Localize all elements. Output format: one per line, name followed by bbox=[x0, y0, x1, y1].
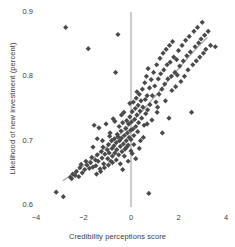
data-point bbox=[149, 77, 154, 82]
data-point bbox=[178, 79, 183, 84]
data-point bbox=[160, 130, 165, 135]
data-point bbox=[155, 110, 160, 115]
data-point bbox=[115, 32, 120, 37]
data-point bbox=[181, 58, 186, 63]
data-point bbox=[95, 136, 100, 141]
y-tick-label: 0.8 bbox=[11, 71, 33, 80]
data-point bbox=[96, 125, 101, 130]
data-point bbox=[176, 48, 181, 53]
plot-canvas bbox=[0, 0, 235, 247]
data-point bbox=[63, 25, 68, 30]
data-point bbox=[135, 129, 140, 134]
data-point bbox=[157, 56, 162, 61]
x-axis-title: Credibility perceptions score bbox=[0, 232, 235, 241]
data-point bbox=[152, 83, 157, 88]
data-point bbox=[92, 123, 97, 128]
data-point bbox=[169, 88, 174, 93]
data-point bbox=[113, 70, 118, 75]
data-point bbox=[114, 157, 119, 162]
data-point bbox=[134, 96, 139, 101]
data-point bbox=[146, 191, 151, 196]
data-point bbox=[185, 67, 190, 72]
data-point bbox=[118, 128, 123, 133]
data-point bbox=[101, 161, 106, 166]
data-point bbox=[61, 194, 66, 199]
data-point bbox=[166, 116, 171, 121]
data-point bbox=[149, 117, 154, 122]
data-point bbox=[208, 43, 213, 48]
data-point bbox=[160, 51, 165, 56]
data-point bbox=[122, 154, 127, 159]
data-points bbox=[54, 20, 218, 200]
data-point bbox=[156, 92, 161, 97]
y-axis-title: Likelihood of new investment (percent) bbox=[8, 34, 17, 184]
data-point bbox=[170, 39, 175, 44]
data-point bbox=[133, 156, 138, 161]
data-point bbox=[164, 47, 169, 52]
data-point bbox=[126, 159, 131, 164]
data-point bbox=[191, 29, 196, 34]
data-point bbox=[100, 138, 105, 143]
data-point bbox=[158, 71, 163, 76]
data-point bbox=[99, 155, 104, 160]
data-point bbox=[130, 109, 135, 114]
data-point bbox=[179, 43, 184, 48]
scatter-chart: Likelihood of new investment (percent) C… bbox=[0, 0, 235, 247]
data-point bbox=[54, 190, 59, 195]
data-point bbox=[134, 112, 139, 117]
x-tick-label: −4 bbox=[25, 213, 47, 222]
data-point bbox=[167, 43, 172, 48]
data-point bbox=[197, 54, 202, 59]
data-point bbox=[206, 29, 211, 34]
y-tick-label: 0.7 bbox=[11, 136, 33, 145]
data-point bbox=[144, 74, 149, 79]
data-point bbox=[163, 98, 168, 103]
data-point bbox=[146, 66, 151, 71]
data-point bbox=[156, 76, 161, 81]
data-point bbox=[147, 102, 152, 107]
data-point bbox=[120, 167, 125, 172]
data-point bbox=[137, 108, 142, 113]
data-point bbox=[90, 145, 95, 150]
data-point bbox=[202, 33, 207, 38]
data-point bbox=[138, 98, 143, 103]
data-point bbox=[102, 165, 107, 170]
data-point bbox=[103, 121, 108, 126]
data-point bbox=[127, 114, 132, 119]
data-point bbox=[131, 133, 136, 138]
data-point bbox=[183, 38, 188, 43]
data-point bbox=[142, 80, 147, 85]
data-point bbox=[182, 74, 187, 79]
data-point bbox=[147, 85, 152, 90]
data-point bbox=[189, 110, 194, 115]
data-point bbox=[107, 134, 112, 139]
data-point bbox=[151, 70, 156, 75]
data-point bbox=[155, 105, 160, 110]
x-tick-label: 2 bbox=[168, 213, 190, 222]
data-point bbox=[200, 20, 205, 25]
x-tick-label: −2 bbox=[73, 213, 95, 222]
x-tick-label: 0 bbox=[120, 213, 142, 222]
data-point bbox=[194, 58, 199, 63]
data-point bbox=[161, 67, 166, 72]
data-point bbox=[154, 62, 159, 67]
data-point bbox=[137, 146, 142, 151]
y-tick-label: 0.6 bbox=[11, 200, 33, 209]
x-tick-label: 4 bbox=[215, 213, 235, 222]
data-point bbox=[213, 44, 218, 49]
data-point bbox=[86, 46, 91, 51]
data-point bbox=[187, 34, 192, 39]
y-tick-label: 0.9 bbox=[11, 7, 33, 16]
data-point bbox=[117, 124, 122, 129]
data-point bbox=[139, 116, 144, 121]
data-point bbox=[153, 99, 158, 104]
data-point bbox=[173, 84, 178, 89]
data-point bbox=[140, 87, 145, 92]
data-point bbox=[195, 25, 200, 30]
data-point bbox=[190, 62, 195, 67]
data-point bbox=[136, 120, 141, 125]
data-point bbox=[118, 161, 123, 166]
data-point bbox=[94, 172, 99, 177]
data-point bbox=[131, 142, 136, 147]
